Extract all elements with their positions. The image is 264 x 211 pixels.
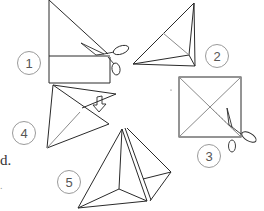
step-4-figure <box>47 85 116 148</box>
step-4-badge: 4 <box>12 121 36 145</box>
step-2-badge: 2 <box>205 44 229 68</box>
scissors-icon <box>81 43 130 76</box>
step-5-badge: 5 <box>57 170 81 194</box>
step-3-badge: 3 <box>197 144 221 168</box>
step-3-figure <box>170 77 258 152</box>
step-3-number: 3 <box>205 149 212 164</box>
cut-off-text-fragment-2: . <box>0 180 3 191</box>
step-1-figure <box>49 0 130 83</box>
step-5-number: 5 <box>65 175 72 190</box>
step-1-badge: 1 <box>17 51 41 75</box>
step-2-figure <box>133 3 195 66</box>
scissors-icon <box>227 108 258 152</box>
diagram-canvas <box>0 0 264 211</box>
cut-off-text-fragment: d. <box>0 152 11 169</box>
step-5-figure <box>78 128 171 208</box>
step-4-number: 4 <box>20 126 27 141</box>
step-1-number: 1 <box>25 56 32 71</box>
step-2-number: 2 <box>213 49 220 64</box>
